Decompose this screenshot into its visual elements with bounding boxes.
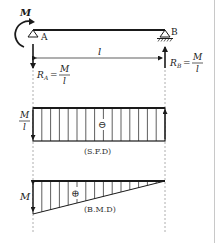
svg-text:M: M — [192, 52, 203, 62]
span-label: l — [98, 46, 101, 57]
svg-text:=: = — [183, 58, 191, 68]
svg-text:A: A — [43, 74, 49, 81]
bmd-caption: (B.M.D) — [84, 205, 116, 214]
sfd-caption: (S.F.D) — [84, 147, 111, 156]
sfd-sign-icon: ⊖ — [98, 119, 106, 130]
bmd-sign-icon: ⊕ — [71, 188, 79, 199]
support-b-label: B — [171, 27, 178, 37]
svg-text:l: l — [63, 76, 66, 86]
bmd-value: M — [19, 191, 31, 202]
svg-text:M: M — [19, 110, 30, 120]
svg-text:=: = — [50, 70, 58, 80]
svg-text:R: R — [169, 58, 177, 68]
sfd-value: M l — [19, 110, 30, 132]
support-a-label: A — [40, 32, 48, 42]
moment-label: M — [19, 7, 32, 18]
reaction-b-formula: R B = M l — [169, 52, 203, 74]
svg-text:l: l — [196, 64, 199, 74]
reaction-a-formula: R A = M l — [36, 64, 70, 86]
svg-text:M: M — [59, 64, 70, 74]
svg-text:R: R — [36, 70, 44, 80]
beam-diagram: A B M l R A = M l R B = M l — [0, 0, 216, 243]
svg-text:l: l — [23, 122, 26, 132]
pin-support-a-icon — [28, 30, 38, 37]
svg-text:B: B — [176, 62, 182, 69]
